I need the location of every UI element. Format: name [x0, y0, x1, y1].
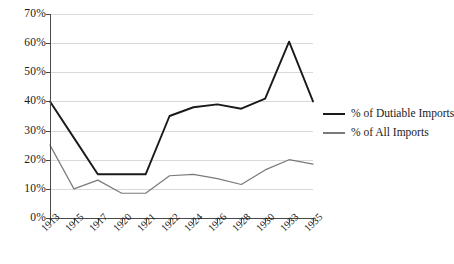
- legend-item[interactable]: % of Dutiable Imports: [323, 104, 445, 123]
- y-axis-tick-mark: [46, 43, 50, 44]
- plot-area: [50, 14, 313, 218]
- y-axis-tick-mark: [46, 189, 50, 190]
- legend-swatch-icon: [323, 132, 345, 134]
- y-axis-tick-mark: [46, 131, 50, 132]
- y-axis-tick-label: 50%: [2, 66, 46, 78]
- y-axis-tick-mark: [46, 101, 50, 102]
- y-axis-tick-label: 40%: [2, 95, 46, 107]
- y-axis-tick-mark: [46, 14, 50, 15]
- y-axis-tick-label: 30%: [2, 125, 46, 137]
- legend-item[interactable]: % of All Imports: [323, 123, 445, 142]
- series-group: [50, 14, 313, 218]
- y-axis-line: [50, 14, 51, 219]
- y-axis-tick-mark: [46, 72, 50, 73]
- y-axis-tick-label: 70%: [2, 8, 46, 20]
- y-axis-tick-label: 10%: [2, 183, 46, 195]
- legend-label: % of Dutiable Imports: [351, 107, 454, 120]
- legend-label: % of All Imports: [351, 126, 429, 139]
- legend-swatch-icon: [323, 113, 345, 115]
- y-axis-tick-label: 20%: [2, 154, 46, 166]
- y-axis-tick-mark: [46, 160, 50, 161]
- series-line: [50, 145, 313, 193]
- series-line: [50, 42, 313, 175]
- y-axis-tick-label: 60%: [2, 37, 46, 49]
- chart-legend: % of Dutiable Imports% of All Imports: [323, 104, 445, 142]
- y-axis-tick-label: 0%: [2, 212, 46, 224]
